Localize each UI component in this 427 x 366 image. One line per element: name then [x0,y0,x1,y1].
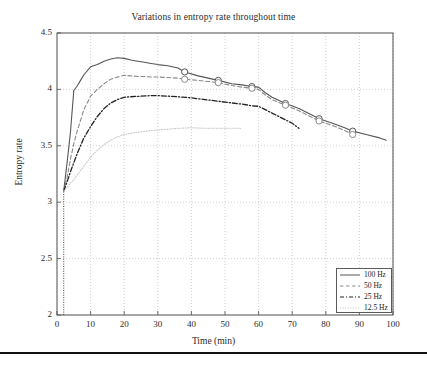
y-tick-label: 3 [26,196,52,206]
x-tick-label: 20 [114,319,134,329]
y-tick-label: 3.5 [26,140,52,150]
x-tick-label: 80 [316,319,336,329]
series-marker [182,69,188,75]
legend-entry-25hz: 25 Hz [337,291,391,302]
legend-line-sample-dotted [339,303,361,313]
legend[interactable]: 100 Hz 50 Hz 25 Hz 12.5 Hz [336,268,392,313]
legend-line-sample-solid [339,270,361,280]
series-marker [215,80,221,86]
page-bottom-rule [0,352,427,354]
legend-entry-12-5hz: 12.5 Hz [337,302,391,313]
x-tick-label: 70 [282,319,302,329]
x-tick-label: 50 [215,319,235,329]
x-tick-label: 30 [148,319,168,329]
y-tick-label: 2 [26,309,52,319]
series-line-50-hz [64,75,353,191]
series-line-100-hz [64,58,387,191]
legend-line-sample-dashdot [339,292,361,302]
legend-label-100hz: 100 Hz [364,270,386,279]
x-tick-label: 90 [349,319,369,329]
series-marker [350,131,356,137]
series-marker [182,76,188,82]
y-axis-title: Entropy rate [14,122,24,202]
legend-entry-100hz: 100 Hz [337,269,391,280]
x-axis-title: Time (min) [0,336,427,346]
x-tick-label: 10 [81,319,101,329]
y-tick-label: 4.5 [26,27,52,37]
series-marker [249,85,255,91]
figure-container: Variations in entropy rate throughout ti… [0,0,427,366]
legend-label-12-5hz: 12.5 Hz [364,303,388,312]
x-tick-label: 40 [181,319,201,329]
series-line-25-hz [64,96,299,191]
x-tick-label: 60 [249,319,269,329]
legend-label-50hz: 50 Hz [364,281,382,290]
y-tick-label: 2.5 [26,253,52,263]
legend-label-25hz: 25 Hz [364,292,382,301]
legend-entry-50hz: 50 Hz [337,280,391,291]
y-tick-label: 4 [26,83,52,93]
series-marker [316,118,322,124]
x-tick-label: 0 [47,319,67,329]
x-tick-label: 100 [383,319,403,329]
series-marker [282,102,288,108]
legend-line-sample-dashed [339,281,361,291]
